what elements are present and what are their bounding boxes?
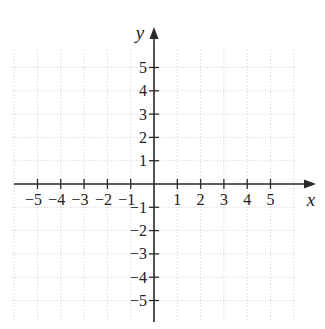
x-tick-label: 3 — [220, 191, 228, 208]
x-axis-arrow-icon — [304, 180, 316, 189]
x-tick-label: −5 — [25, 191, 42, 208]
x-tick-label: 4 — [243, 191, 251, 208]
x-tick-label: −2 — [95, 191, 112, 208]
y-tick-label: −2 — [130, 222, 147, 239]
y-axis-label: y — [134, 22, 145, 43]
y-tick-label: −1 — [130, 199, 147, 216]
x-tick-label: 1 — [173, 191, 181, 208]
y-tick-label: 2 — [139, 129, 147, 146]
y-tick-label: 4 — [139, 82, 147, 99]
y-tick-label: 5 — [139, 59, 147, 76]
y-tick-label: −3 — [130, 245, 147, 262]
y-tick-label: −5 — [130, 292, 147, 309]
x-tick-label: 5 — [267, 191, 275, 208]
x-axis-label: x — [306, 189, 316, 210]
y-tick-label: 3 — [139, 106, 147, 123]
x-tick-label: −3 — [72, 191, 89, 208]
coordinate-plane: −5−4−3−2−11234554321−1−2−3−4−5 y x — [0, 0, 325, 329]
y-tick-label: 1 — [139, 152, 147, 169]
y-tick-label: −4 — [130, 269, 147, 286]
y-axis-arrow-icon — [150, 27, 159, 39]
x-tick-label: −4 — [48, 191, 65, 208]
x-tick-label: 2 — [197, 191, 205, 208]
